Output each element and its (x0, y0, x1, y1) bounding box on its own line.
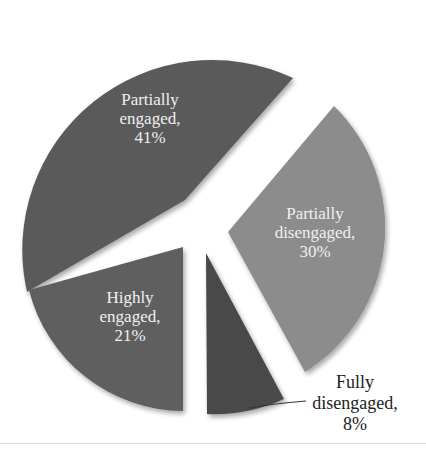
label-partially-disengaged: Partially disengaged, 30% (260, 204, 370, 261)
label-fully-disengaged: Fully disengaged, 8% (300, 372, 410, 435)
label-highly-engaged: Highly engaged, 21% (80, 288, 180, 345)
divider-line (0, 443, 426, 444)
label-partially-engaged: Partially engaged, 41% (100, 90, 200, 147)
